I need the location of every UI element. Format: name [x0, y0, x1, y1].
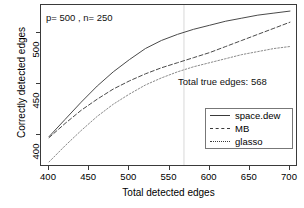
x-tick-label: 600 [189, 171, 229, 182]
x-tick-mark [48, 166, 49, 170]
legend-item-space-dew: space.dew [206, 110, 292, 122]
x-tick-label: 500 [108, 171, 148, 182]
x-tick-mark [88, 166, 89, 170]
legend-item-mb: MB [206, 123, 292, 135]
legend-line-sample-dotted-icon [210, 141, 230, 142]
x-tick-label: 550 [149, 171, 189, 182]
x-tick-mark [128, 166, 129, 170]
x-tick-label: 700 [269, 171, 304, 182]
chart-canvas: Correctly detected edges 400450500550600… [0, 0, 304, 208]
legend-box: space.dew MB glasso [205, 108, 293, 149]
x-tick-mark [289, 166, 290, 170]
x-axis-title: Total detected edges [40, 187, 297, 198]
x-tick-mark [249, 166, 250, 170]
y-tick-label: 500 [30, 32, 41, 68]
annotation-total-true-edges: Total true edges: 568 [178, 76, 267, 87]
legend-line-sample-dashed-icon [210, 128, 230, 129]
y-axis-title: Correctly detected edges [16, 3, 27, 163]
x-tick-label: 400 [28, 171, 68, 182]
x-tick-label: 650 [229, 171, 269, 182]
y-tick-label: 450 [30, 83, 41, 119]
legend-item-glasso: glasso [206, 136, 292, 148]
legend-line-sample-solid-icon [210, 115, 230, 116]
x-tick-label: 450 [68, 171, 108, 182]
annotation-params: p= 500 , n= 250 [46, 12, 113, 23]
y-tick-label: 400 [30, 133, 41, 169]
legend-label: MB [235, 123, 249, 135]
x-tick-mark [209, 166, 210, 170]
x-tick-mark [169, 166, 170, 170]
legend-label: glasso [235, 136, 262, 148]
legend-label: space.dew [235, 110, 280, 122]
